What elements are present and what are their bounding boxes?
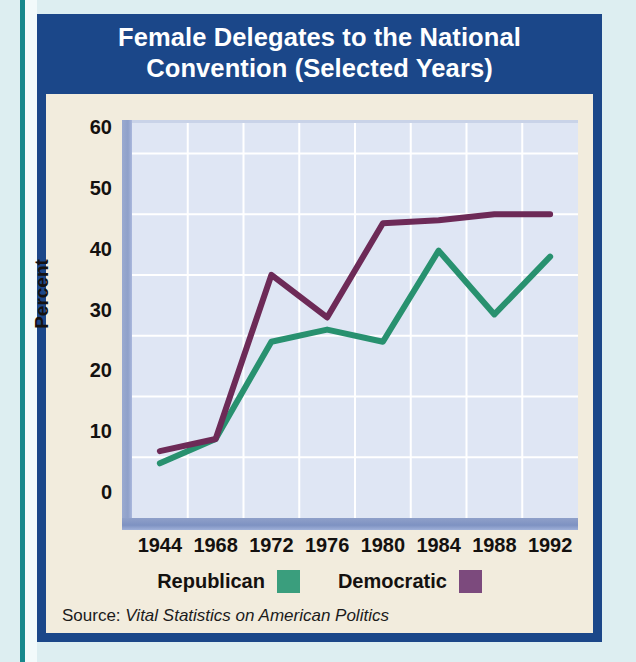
y-axis-tick-label: 60 bbox=[90, 116, 112, 139]
y-axis-tick-label: 50 bbox=[90, 177, 112, 200]
x-axis-tick-label: 1944 bbox=[138, 534, 183, 557]
y-axis-tick-label: 20 bbox=[90, 359, 112, 382]
y-axis-tick-label: 40 bbox=[90, 237, 112, 260]
legend-swatch-icon bbox=[277, 570, 300, 593]
y-axis: Percent 0102030405060 bbox=[46, 94, 122, 504]
x-axis: 19441968197219761980198419881992 bbox=[122, 534, 578, 564]
right-margin bbox=[620, 0, 636, 662]
chart-title-line-2: Convention (Selected Years) bbox=[146, 53, 493, 84]
x-axis-tick-label: 1968 bbox=[193, 534, 238, 557]
x-axis-tick-label: 1972 bbox=[249, 534, 294, 557]
y-axis-tick-label: 30 bbox=[90, 298, 112, 321]
y-axis-tick-label: 0 bbox=[101, 481, 112, 504]
source-prefix: Source: bbox=[62, 606, 121, 625]
plot-area bbox=[132, 123, 578, 518]
legend-label: Republican bbox=[157, 570, 265, 593]
legend-item-republican[interactable]: Republican bbox=[157, 570, 300, 593]
legend-swatch-icon bbox=[459, 570, 482, 593]
y-axis-title: Percent bbox=[31, 259, 53, 329]
infographic-page: Female Delegates to the National Convent… bbox=[0, 0, 636, 662]
plot-bevel-left bbox=[122, 120, 132, 530]
x-axis-tick-label: 1976 bbox=[305, 534, 350, 557]
x-axis-tick-label: 1992 bbox=[528, 534, 573, 557]
x-axis-tick-label: 1984 bbox=[416, 534, 461, 557]
chart-panel: Percent 0102030405060 194419681972197619… bbox=[46, 94, 593, 633]
y-axis-tick-label: 10 bbox=[90, 420, 112, 443]
chart-title: Female Delegates to the National Convent… bbox=[37, 14, 602, 92]
line-chart-svg bbox=[132, 123, 578, 518]
chart-title-line-1: Female Delegates to the National bbox=[118, 22, 521, 53]
white-accent-rule bbox=[25, 0, 37, 662]
x-axis-tick-label: 1980 bbox=[361, 534, 406, 557]
chart-card: Female Delegates to the National Convent… bbox=[37, 14, 602, 642]
source-publication: Vital Statistics on American Politics bbox=[125, 606, 389, 625]
chart-legend: RepublicanDemocratic bbox=[46, 570, 593, 593]
x-axis-tick-label: 1988 bbox=[472, 534, 517, 557]
legend-label: Democratic bbox=[338, 570, 447, 593]
source-note: Source: Vital Statistics on American Pol… bbox=[62, 606, 389, 626]
plot-area-frame bbox=[122, 120, 578, 530]
legend-item-democratic[interactable]: Democratic bbox=[338, 570, 482, 593]
plot-bevel-bottom bbox=[122, 518, 578, 530]
